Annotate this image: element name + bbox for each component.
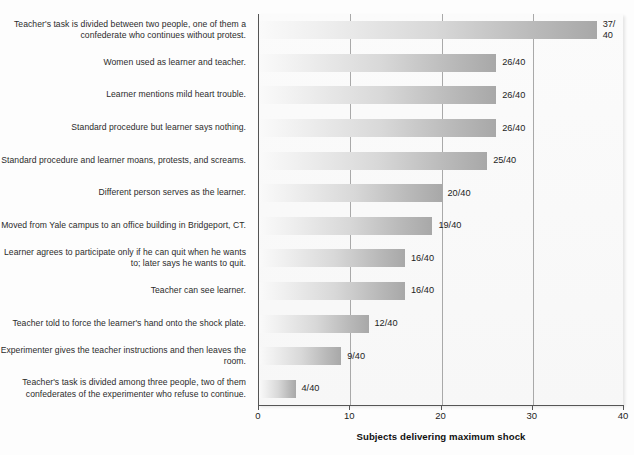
category-label: Teacher can see learner. bbox=[0, 285, 253, 297]
bar bbox=[259, 86, 496, 104]
x-tick-label: 20 bbox=[435, 410, 446, 421]
category-label: Women used as learner and teacher. bbox=[0, 57, 253, 69]
category-label: Teacher's task is divided between two pe… bbox=[0, 19, 253, 42]
bar bbox=[259, 54, 496, 72]
bar bbox=[259, 119, 496, 137]
category-label: Teacher's task is divided among three pe… bbox=[0, 377, 253, 400]
bar bbox=[259, 217, 432, 235]
bar-chart: Teacher's task is divided between two pe… bbox=[0, 0, 634, 455]
bar-value-label: 20/40 bbox=[448, 188, 471, 199]
category-label: Standard procedure and learner moans, pr… bbox=[0, 155, 253, 167]
x-tick-label: 30 bbox=[526, 410, 537, 421]
bar-value-label: 26/40 bbox=[502, 123, 525, 134]
bar bbox=[259, 380, 296, 398]
bar-value-label: 26/40 bbox=[502, 57, 525, 68]
bar bbox=[259, 184, 442, 202]
bar bbox=[259, 249, 405, 267]
plot-area: 37/ 4026/4026/4026/4025/4020/4019/4016/4… bbox=[258, 14, 623, 405]
x-tick-label: 10 bbox=[344, 410, 355, 421]
category-label: Learner agrees to participate only if he… bbox=[0, 247, 253, 270]
bar bbox=[259, 282, 405, 300]
bar bbox=[259, 21, 597, 39]
bar bbox=[259, 347, 341, 365]
x-tick-label: 0 bbox=[255, 410, 260, 421]
gridline-30 bbox=[533, 14, 534, 405]
bar bbox=[259, 315, 369, 333]
x-axis-title: Subjects delivering maximum shock bbox=[258, 431, 624, 442]
category-label: Teacher told to force the learner's hand… bbox=[0, 318, 253, 330]
category-label: Learner mentions mild heart trouble. bbox=[0, 89, 253, 101]
bar-value-label: 25/40 bbox=[493, 155, 516, 166]
bar-value-label: 9/40 bbox=[347, 351, 365, 362]
bar-value-label: 37/ 40 bbox=[603, 19, 616, 40]
category-label: Experimenter gives the teacher instructi… bbox=[0, 345, 253, 368]
category-label: Moved from Yale campus to an office buil… bbox=[0, 220, 253, 232]
bar bbox=[259, 152, 487, 170]
category-label: Different person serves as the learner. bbox=[0, 187, 253, 199]
bar-value-label: 19/40 bbox=[438, 220, 461, 231]
category-label: Standard procedure but learner says noth… bbox=[0, 122, 253, 134]
bar-value-label: 26/40 bbox=[502, 90, 525, 101]
bar-value-label: 16/40 bbox=[411, 285, 434, 296]
category-label-column: Teacher's task is divided between two pe… bbox=[0, 14, 253, 405]
x-tick-label: 40 bbox=[618, 410, 629, 421]
gridline-10 bbox=[350, 14, 351, 405]
bar-value-label: 12/40 bbox=[375, 318, 398, 329]
bar-value-label: 16/40 bbox=[411, 253, 434, 264]
gridline-20 bbox=[442, 14, 443, 405]
bar-value-label: 4/40 bbox=[302, 383, 320, 394]
